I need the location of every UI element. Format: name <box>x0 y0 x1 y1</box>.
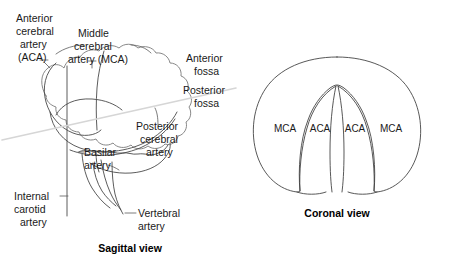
label-mca-line2: cerebral <box>74 40 112 52</box>
label-ica-line2: carotid <box>14 203 46 215</box>
label-pca-line2: cerebral <box>140 133 178 145</box>
sylvian-fissure-curve <box>56 99 122 115</box>
label-aca-line4: (ACA) <box>18 51 47 63</box>
label-pca-line1: Posterior <box>136 120 179 132</box>
label-ica-line1: Internal <box>14 190 49 202</box>
coronal-left-notch-close <box>297 192 326 194</box>
coronal-label-aca-right: ACA <box>345 123 366 134</box>
label-mca-line3: artery (MCA) <box>68 53 128 65</box>
label-vertebral-line2: artery <box>138 220 166 232</box>
label-pca-line3: artery <box>146 146 174 158</box>
label-posterior-fossa-line2: fossa <box>194 97 219 109</box>
label-ica-line3: artery <box>20 216 48 228</box>
coronal-label-aca-left: ACA <box>310 123 331 134</box>
cerebral-artery-territories-figure: Anterior cerebral artery (ACA) Middle ce… <box>0 0 450 264</box>
label-basilar-line2: artery <box>84 159 112 171</box>
coronal-label-mca-left: MCA <box>274 123 297 134</box>
label-anterior-fossa-line1: Anterior <box>186 52 223 64</box>
sagittal-view-caption: Sagittal view <box>98 242 162 254</box>
label-aca-line3: artery <box>20 38 48 50</box>
coronal-view-group: MCA ACA ACA MCA Coronal view <box>253 57 420 219</box>
label-posterior-fossa-line1: Posterior <box>183 84 226 96</box>
mca-right-connector <box>131 45 151 53</box>
label-aca-line2: cerebral <box>16 25 54 37</box>
label-mca-line1: Middle <box>78 27 109 39</box>
vertebral-artery-right-line <box>112 162 123 214</box>
sagittal-view-group: Anterior cerebral artery (ACA) Middle ce… <box>2 12 236 254</box>
coronal-right-notch-close <box>348 192 377 194</box>
coronal-label-mca-right: MCA <box>380 123 403 134</box>
label-aca-line1: Anterior <box>16 12 53 24</box>
coronal-view-caption: Coronal view <box>304 207 370 219</box>
label-vertebral-line1: Vertebral <box>138 207 180 219</box>
label-anterior-fossa-line2: fossa <box>194 65 219 77</box>
coronal-falx-left <box>330 86 336 192</box>
coronal-falx-right <box>338 86 344 192</box>
label-basilar-line1: Basilar <box>84 146 117 158</box>
